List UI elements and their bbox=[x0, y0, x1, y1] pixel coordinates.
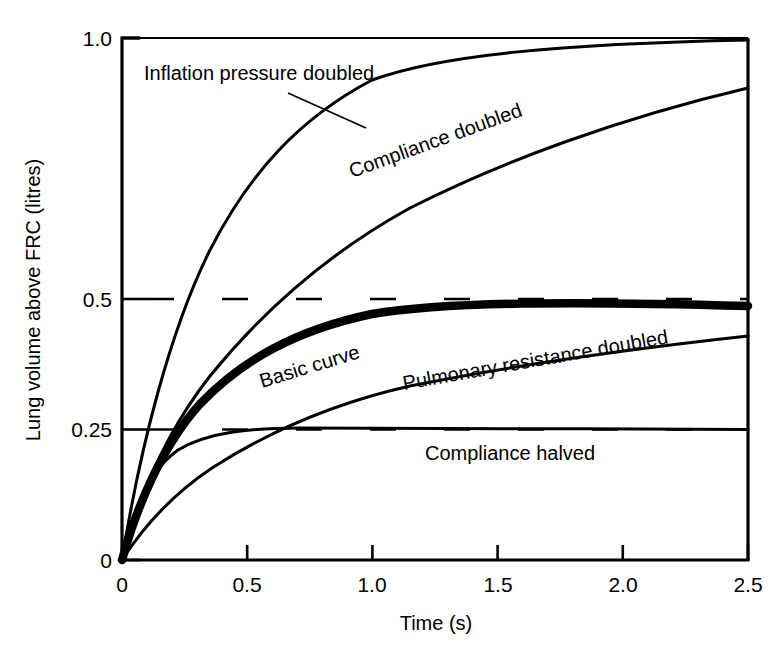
x-axis-title: Time (s) bbox=[400, 612, 473, 634]
annotation-inflation-pressure-doubled: Inflation pressure doubled bbox=[144, 62, 374, 84]
annotation-pulmonary-resistance-doubled: Pulmonary resistance doubled bbox=[401, 326, 670, 394]
y-tick-label-05: 0.5 bbox=[83, 288, 112, 311]
y-tick-label-0: 0 bbox=[100, 549, 112, 572]
x-tick-label-25: 2.5 bbox=[733, 573, 762, 596]
leader-line-inflation-pressure bbox=[288, 93, 366, 128]
chart-figure: 1.0 0.5 0.25 0 0 0.5 1.0 1.5 2.0 2.5 Tim… bbox=[0, 0, 779, 655]
x-tick-label-15: 1.5 bbox=[483, 573, 512, 596]
x-tick-label-0: 0 bbox=[116, 573, 128, 596]
lung-volume-chart: 1.0 0.5 0.25 0 0 0.5 1.0 1.5 2.0 2.5 Tim… bbox=[0, 0, 779, 655]
y-tick-label-025: 0.25 bbox=[71, 418, 112, 441]
y-axis-title: Lung volume above FRC (litres) bbox=[22, 159, 44, 441]
x-tick-label-10: 1.0 bbox=[357, 573, 386, 596]
curve-compliance-doubled bbox=[122, 88, 748, 560]
axis-spines bbox=[122, 38, 748, 560]
x-tick-label-05: 0.5 bbox=[232, 573, 261, 596]
annotation-compliance-halved: Compliance halved bbox=[425, 442, 595, 464]
x-tick-label-20: 2.0 bbox=[608, 573, 637, 596]
x-axis-ticks bbox=[122, 545, 748, 560]
y-tick-label-10: 1.0 bbox=[83, 27, 112, 50]
